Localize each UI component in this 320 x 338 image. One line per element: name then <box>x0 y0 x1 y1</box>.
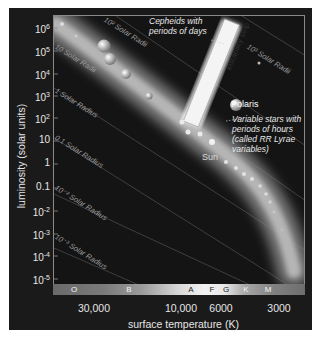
rr-lyrae-annotation: Variable stars with periods of hours (ca… <box>232 114 301 154</box>
x-tick-10000: 10,000 <box>165 302 197 314</box>
y-tick-1e-4: 10-4 <box>20 250 50 263</box>
spectral-label-m: M <box>265 285 272 294</box>
x-tick-6000: 6000 <box>209 302 232 314</box>
spectral-label-f: F <box>210 285 215 294</box>
cepheids-annotation: Cepheids with periods of days <box>149 16 207 36</box>
x-axis-title: surface temperature (K) <box>128 318 239 330</box>
y-tick-1e-5: 10-5 <box>20 273 50 286</box>
y-tick-1e6: 106 <box>20 22 50 35</box>
spectral-label-k: K <box>243 285 248 294</box>
spectral-label-a: A <box>188 285 193 294</box>
x-tick-3000: 3000 <box>267 302 290 314</box>
polaris-label: Polaris <box>231 99 259 109</box>
x-tick-30000: 30,000 <box>78 302 110 314</box>
spectral-label-b: B <box>126 285 131 294</box>
y-tick-1e5: 105 <box>20 45 50 58</box>
sun-label: Sun <box>202 152 218 162</box>
spectral-label-g: G <box>223 285 229 294</box>
y-axis-title: luminosity (solar units) <box>15 71 27 241</box>
spectral-label-o: O <box>71 285 77 294</box>
